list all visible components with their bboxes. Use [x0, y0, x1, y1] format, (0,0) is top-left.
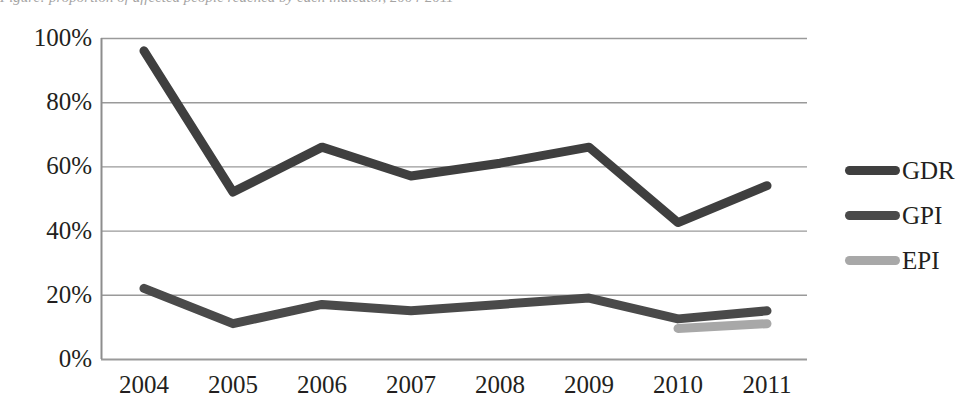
legend-label: GDR [902, 158, 955, 183]
y-tick-label: 80% [0, 89, 92, 114]
x-tick-label-2007: 2007 [361, 372, 461, 397]
x-tick-label-2010: 2010 [628, 372, 728, 397]
x-tick-label-2009: 2009 [539, 372, 639, 397]
x-tick-label-2004: 2004 [94, 372, 194, 397]
legend-item-gdr[interactable]: GDR [845, 148, 970, 193]
legend-item-epi[interactable]: EPI [845, 238, 970, 283]
legend-label: GPI [902, 203, 942, 228]
legend-label: EPI [902, 248, 940, 273]
series-line-epi[interactable] [678, 324, 767, 329]
y-tick-label: 0% [0, 346, 92, 371]
legend-swatch-icon [845, 211, 900, 220]
x-tick-label-2005: 2005 [183, 372, 283, 397]
x-tick-label-2006: 2006 [272, 372, 372, 397]
legend-item-gpi[interactable]: GPI [845, 193, 970, 238]
y-tick-label: 40% [0, 218, 92, 243]
line-chart-figure: 100%80%60%40%20%0% 200420052006200720082… [0, 0, 970, 420]
legend-swatch-icon [845, 166, 900, 175]
chart-plot-area [0, 0, 970, 420]
chart-legend: GDRGPIEPI [845, 148, 970, 283]
series-line-gdr[interactable] [144, 51, 767, 223]
data-series-group [144, 51, 767, 329]
x-tick-label-2011: 2011 [717, 372, 817, 397]
y-tick-label: 20% [0, 282, 92, 307]
y-tick-label: 60% [0, 153, 92, 178]
y-tick-label: 100% [0, 25, 92, 50]
x-tick-label-2008: 2008 [450, 372, 550, 397]
legend-swatch-icon [845, 256, 900, 265]
series-line-gpi[interactable] [144, 288, 767, 323]
